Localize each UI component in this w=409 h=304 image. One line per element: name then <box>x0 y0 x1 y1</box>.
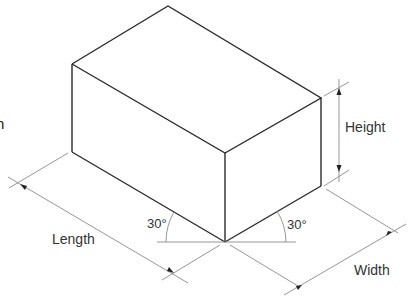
angle-left-label: 30° <box>147 217 167 230</box>
angle-arc-right <box>277 211 286 242</box>
top-face <box>72 6 321 153</box>
arrowheads <box>20 88 392 290</box>
angle-right-label: 30° <box>287 218 307 231</box>
length-label: Length <box>52 232 95 246</box>
height-extension-bottom <box>324 170 349 186</box>
width-extension-left <box>230 245 298 286</box>
arrow-length-left <box>20 184 27 190</box>
width-extension-right <box>326 189 398 233</box>
length-extension-right <box>162 245 220 280</box>
arrow-width-right <box>386 231 392 236</box>
arrow-length-right <box>167 267 174 273</box>
isometric-box-diagram <box>0 0 409 304</box>
width-label: Width <box>354 263 390 277</box>
arrow-height-bottom <box>337 165 342 172</box>
height-extension-top <box>324 82 349 96</box>
clipped-left-text: h <box>0 116 4 131</box>
box-edges <box>72 6 321 242</box>
dimension-lines <box>8 79 406 295</box>
bottom-right-edge <box>225 186 321 242</box>
height-label: Height <box>345 120 385 134</box>
angle-arc-left <box>166 212 174 242</box>
